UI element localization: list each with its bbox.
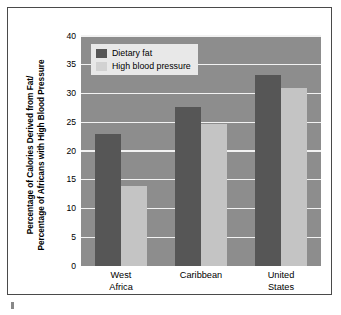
bar-caribbean-high-blood-pressure (201, 124, 227, 266)
y-tick-label: 35 (56, 60, 76, 69)
y-tick-label: 25 (56, 118, 76, 127)
x-tick-label-line: Africa (81, 282, 161, 294)
y-tick-label: 0 (56, 262, 76, 271)
legend-label-high-blood-pressure: High blood pressure (112, 61, 191, 71)
y-tick-label: 20 (56, 147, 76, 156)
x-axis-tick-labels: WestAfricaCaribbeanUnitedStates (81, 270, 321, 300)
x-tick-label-line: Caribbean (161, 270, 241, 282)
x-tick-label-line: States (241, 282, 321, 294)
legend-item: High blood pressure (96, 61, 191, 71)
y-axis-title-line-1: Percentage of Calories Derived from Fat/ (25, 76, 36, 234)
chart-legend: Dietary fat High blood pressure (91, 44, 198, 75)
x-tick-label: WestAfrica (81, 270, 161, 293)
y-axis-title: Percentage of Calories Derived from Fat/… (19, 31, 53, 279)
x-tick-label: Caribbean (161, 270, 241, 282)
y-tick-label: 5 (56, 233, 76, 242)
gridline (81, 35, 321, 36)
x-tick-label-line: United (241, 270, 321, 282)
legend-item: Dietary fat (96, 48, 191, 58)
y-tick-label: 30 (56, 89, 76, 98)
bar-caribbean-dietary-fat (175, 107, 201, 266)
legend-label-dietary-fat: Dietary fat (112, 48, 152, 58)
x-tick-label: UnitedStates (241, 270, 321, 293)
legend-swatch-high-blood-pressure (96, 62, 107, 71)
chart-frame: Percentage of Calories Derived from Fat/… (7, 7, 332, 295)
y-tick-label: 15 (56, 175, 76, 184)
x-axis-line (80, 266, 322, 268)
y-axis-title-line-2: Percentage of Africans with High Blood P… (36, 60, 47, 251)
corner-tick-mark (11, 302, 14, 309)
bar-united-states-dietary-fat (255, 75, 281, 266)
legend-swatch-dietary-fat (96, 49, 107, 58)
y-axis-tick-labels: 0510152025303540 (52, 36, 76, 266)
y-tick-label: 10 (56, 204, 76, 213)
x-tick-label-line: West (81, 270, 161, 282)
bar-west-africa-dietary-fat (95, 134, 121, 266)
y-tick-label: 40 (56, 32, 76, 41)
bar-west-africa-high-blood-pressure (121, 186, 147, 267)
bar-united-states-high-blood-pressure (281, 88, 307, 266)
plot-area: Dietary fat High blood pressure (81, 36, 321, 266)
